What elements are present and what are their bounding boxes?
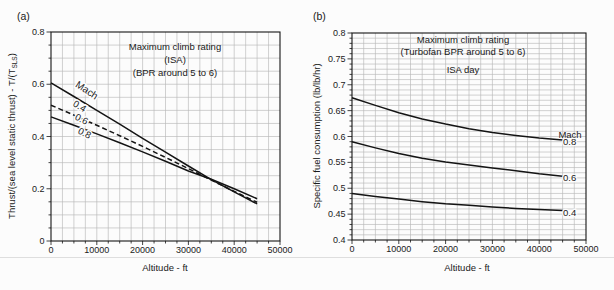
y-tick-label: 0 xyxy=(39,236,44,246)
panel-b: 010000200003000040000500000.40.450.50.55… xyxy=(311,10,599,273)
panel-b-title-line-2: (Turbofan BPR around 5 to 6) xyxy=(401,46,526,57)
panel-b-curve-label-mach-0-4: 0.4 xyxy=(563,207,576,218)
panel-b-tag: (b) xyxy=(313,10,326,22)
panel-a-tick-labels: 0100002000030000400005000000.20.40.60.8 xyxy=(32,27,293,255)
x-tick-label: 40000 xyxy=(222,245,247,255)
panel-a-title-line-2: (ISA) xyxy=(164,54,186,65)
x-tick-label: 40000 xyxy=(527,244,552,254)
x-tick-label: 0 xyxy=(349,244,354,254)
x-tick-label: 10000 xyxy=(84,245,109,255)
panel-b-curve-label-mach-0-8: 0.8 xyxy=(563,136,576,147)
panel-a: 0100002000030000400005000000.20.40.60.8 … xyxy=(6,10,293,273)
panel-b-curve-label-mach-0-6: 0.6 xyxy=(563,172,576,183)
y-tick-label: 0.65 xyxy=(328,106,346,116)
panel-b-title-line-3: ISA day xyxy=(447,64,480,75)
y-tick-label: 0.8 xyxy=(32,27,45,37)
panel-a-y-axis-label: Thrust/(sea level static thrust) - T/(TS… xyxy=(6,53,18,219)
panel-a-x-axis-label: Altitude - ft xyxy=(142,262,188,273)
panel-b-y-axis-label: Specific fuel consumption (lb/lb/hr) xyxy=(311,63,322,208)
chart-canvas: 0100002000030000400005000000.20.40.60.8 … xyxy=(0,0,614,290)
panel-b-title-line-1: Maximum climb rating xyxy=(417,34,509,45)
y-tick-label: 0.55 xyxy=(328,157,346,167)
y-tick-label: 0.6 xyxy=(333,132,346,142)
x-tick-label: 10000 xyxy=(386,244,411,254)
panel-a-title-line-1: Maximum climb rating xyxy=(129,41,221,52)
panel-b-x-axis-label: Altitude - ft xyxy=(444,262,490,273)
y-tick-label: 0.4 xyxy=(333,235,346,245)
y-tick-label: 0.6 xyxy=(32,79,45,89)
y-tick-label: 0.2 xyxy=(32,184,45,194)
x-tick-label: 0 xyxy=(48,245,53,255)
dual-panel-chart-figure: 0100002000030000400005000000.20.40.60.8 … xyxy=(0,0,614,290)
panel-a-tag: (a) xyxy=(17,10,30,22)
y-tick-label: 0.45 xyxy=(328,209,346,219)
x-tick-label: 30000 xyxy=(176,245,201,255)
x-tick-label: 50000 xyxy=(267,245,292,255)
y-tick-label: 0.7 xyxy=(333,80,346,90)
x-tick-label: 50000 xyxy=(573,244,598,254)
y-tick-label: 0.5 xyxy=(333,183,346,193)
panel-a-title-line-3: (BPR around 5 to 6) xyxy=(133,67,218,78)
y-tick-label: 0.75 xyxy=(328,54,346,64)
y-tick-label: 0.8 xyxy=(333,28,346,38)
x-tick-label: 20000 xyxy=(433,244,458,254)
panel-b-tick-labels: 010000200003000040000500000.40.450.50.55… xyxy=(328,28,599,254)
x-tick-label: 30000 xyxy=(480,244,505,254)
x-tick-label: 20000 xyxy=(130,245,155,255)
y-tick-label: 0.4 xyxy=(32,132,45,142)
